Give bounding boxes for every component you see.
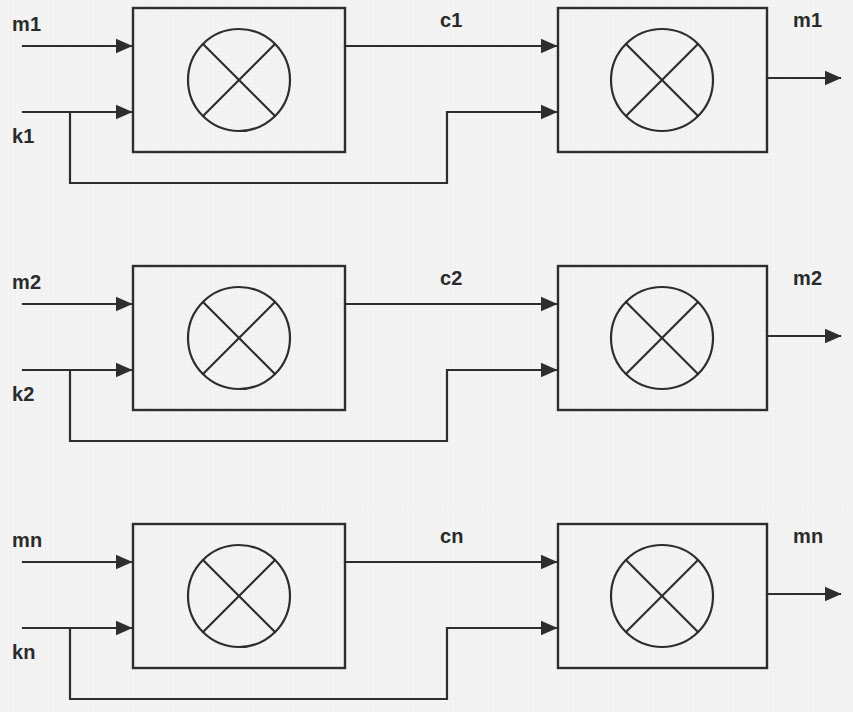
encryptor-n-block: [133, 524, 345, 668]
row-2: [23, 266, 840, 441]
label-plaintext-in-1: m1: [12, 14, 41, 34]
label-plaintext-in-n: mn: [12, 530, 42, 550]
block-diagram-graphics: [0, 0, 853, 712]
label-plaintext-out-1: m1: [793, 10, 822, 30]
diagram-canvas: m1 k1 c1 m1 m2 k2 c2 m2 mn kn cn mn: [0, 0, 853, 712]
label-ciphertext-n: cn: [440, 526, 464, 546]
row-1: [23, 8, 840, 183]
wire-key-feedback-n: [70, 628, 556, 699]
wire-key-feedback-2: [70, 370, 556, 441]
label-key-in-n: kn: [12, 642, 36, 662]
label-key-in-1: k1: [12, 126, 35, 146]
label-plaintext-out-2: m2: [793, 268, 822, 288]
decryptor-2-block: [558, 266, 767, 410]
decryptor-1-block: [558, 8, 767, 152]
row-3: [23, 524, 840, 699]
decryptor-n-block: [558, 524, 767, 668]
encryptor-2-block: [133, 266, 345, 410]
label-ciphertext-1: c1: [440, 10, 463, 30]
encryptor-1-block: [133, 8, 345, 152]
wire-key-feedback-1: [70, 112, 556, 183]
label-plaintext-out-n: mn: [793, 526, 823, 546]
label-plaintext-in-2: m2: [12, 272, 41, 292]
label-ciphertext-2: c2: [440, 268, 463, 288]
label-key-in-2: k2: [12, 384, 35, 404]
